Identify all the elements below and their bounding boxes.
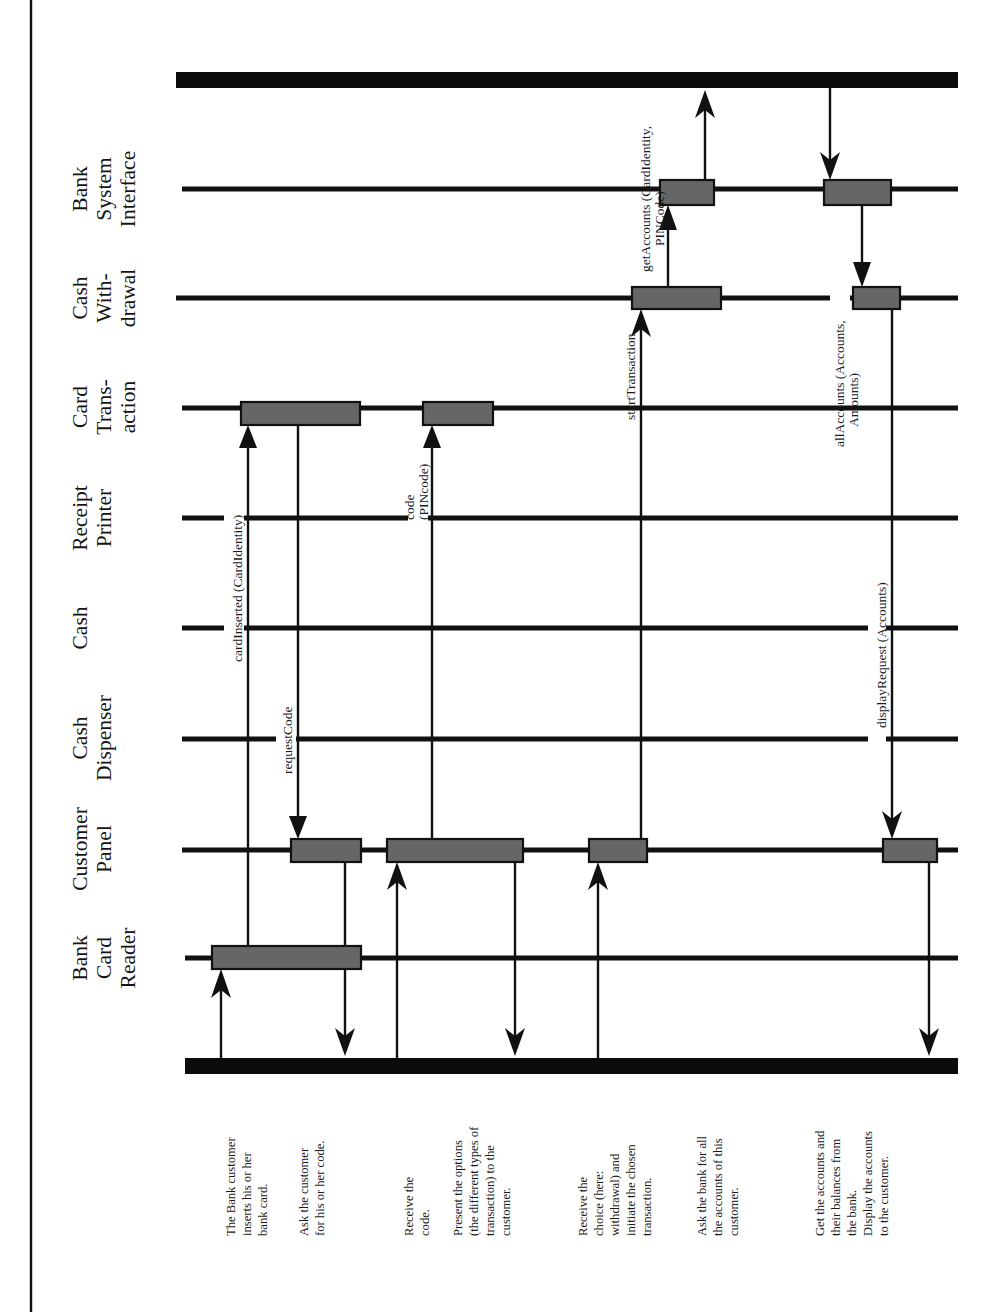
object-name-cash-withdrawal: Cash With- drawal [68,269,140,328]
message-label-getAccounts: getAccounts (CardIdentity, PINCode) [638,126,667,272]
step-note-2: Ask the customer for his or her code. [297,1141,327,1236]
svg-text:getAccounts (CardIdentity,: getAccounts (CardIdentity, [638,126,653,272]
svg-text:their balances from: their balances from [829,1139,843,1236]
svg-text:Receive the: Receive the [402,1177,416,1236]
svg-text:With-: With- [92,273,116,322]
arrowhead-filled-up-icon [423,425,441,448]
svg-text:Printer: Printer [92,489,116,548]
svg-text:for his or her code.: for his or her code. [313,1141,327,1236]
arrowhead-filled-down-icon [289,816,307,839]
svg-text:Get the accounts and: Get the accounts and [813,1130,827,1236]
svg-text:Cash: Cash [68,606,92,649]
step-note-7: Get the accounts and their balances from… [813,1130,891,1236]
object-name-cash: Cash [68,606,92,649]
svg-text:Card: Card [92,937,116,979]
activation-customer-panel-2 [387,839,523,862]
activation-card-transaction-2 [423,402,493,425]
object-name-bank-card-reader: Bank Card Reader [68,928,140,989]
svg-text:System: System [92,157,116,221]
svg-text:Card: Card [68,386,92,428]
svg-text:Dispenser: Dispenser [92,695,116,781]
svg-text:action: action [116,380,140,433]
svg-text:the bank.: the bank. [845,1190,859,1236]
svg-text:Bank: Bank [68,935,92,981]
svg-text:The Bank customer: The Bank customer [224,1137,238,1236]
svg-text:Reader: Reader [116,928,140,989]
svg-text:withdrawal) and: withdrawal) and [608,1153,622,1236]
sequence-diagram: Bank System Interface Cash With- drawal … [0,0,1004,1312]
svg-text:Ask the customer: Ask the customer [297,1147,311,1236]
step-note-4: Present the options (the different types… [451,1126,513,1236]
message-label-startTransaction: startTransaction [623,333,638,420]
svg-text:customer.: customer. [727,1187,741,1236]
svg-text:transaction.: transaction. [640,1178,654,1236]
svg-text:cardInserted (CardIdentity): cardInserted (CardIdentity) [230,515,245,662]
arrowhead-filled-down-icon [853,262,871,287]
svg-text:(PINcode): (PINcode) [416,464,431,520]
svg-text:Trans-: Trans- [92,379,116,434]
message-label-allAccounts: allAccounts (Accounts, Amounts) [832,320,861,447]
object-name-card-transaction: Card Trans- action [68,379,140,434]
svg-text:requestCode: requestCode [280,707,295,774]
svg-text:customer.: customer. [499,1187,513,1236]
message-label-code: code (PINcode) [402,464,431,520]
svg-text:code: code [402,495,417,520]
activation-card-transaction-1 [241,402,360,425]
activation-customer-panel-3 [589,839,647,862]
svg-text:the accounts of this: the accounts of this [711,1138,725,1236]
svg-text:initiate the chosen: initiate the chosen [624,1144,638,1236]
activation-cash-withdrawal-2 [853,287,900,309]
svg-text:code.: code. [418,1209,432,1236]
svg-text:inserts his or her: inserts his or her [240,1152,254,1236]
svg-text:drawal: drawal [116,269,140,328]
object-name-receipt-printer: Receipt Printer [68,485,116,551]
svg-text:startTransaction: startTransaction [623,333,638,420]
activation-bank-system-interface-1 [660,180,714,205]
object-name-bank-system-interface: Bank System Interface [68,151,140,227]
svg-text:transaction) to the: transaction) to the [483,1145,497,1236]
svg-text:Cash: Cash [68,716,92,759]
svg-text:displayRequest (Accounts): displayRequest (Accounts) [874,582,889,728]
svg-text:bank card.: bank card. [256,1184,270,1236]
svg-text:to the customer.: to the customer. [877,1156,891,1236]
step-note-1: The Bank customer inserts his or her ban… [224,1137,270,1236]
step-note-3: Receive the code. [402,1177,432,1236]
activation-bank-card-reader-1 [212,946,361,969]
message-label-displayRequest: displayRequest (Accounts) [874,582,889,728]
top-boundary-bar [176,72,958,88]
step-note-6: Ask the bank for all the accounts of thi… [695,1135,741,1236]
svg-text:Amounts): Amounts) [846,373,861,427]
svg-text:Display the accounts: Display the accounts [861,1131,875,1236]
step-note-5: Receive the choice (here: withdrawal) an… [576,1144,654,1236]
svg-text:(the different types of: (the different types of [467,1126,481,1236]
svg-text:Present the options: Present the options [451,1140,465,1236]
object-name-cash-dispenser: Cash Dispenser [68,695,116,781]
svg-text:Customer: Customer [68,807,92,891]
svg-text:Panel: Panel [92,825,116,873]
activation-cash-withdrawal-1 [632,287,721,309]
svg-text:Cash: Cash [68,276,92,319]
message-label-requestCode: requestCode [280,707,295,774]
svg-text:choice (here:: choice (here: [592,1171,606,1236]
bottom-boundary-bar [185,1058,958,1074]
svg-text:Bank: Bank [68,166,92,212]
svg-text:Interface: Interface [116,151,140,227]
svg-text:Ask the bank for all: Ask the bank for all [695,1135,709,1236]
message-label-cardInserted: cardInserted (CardIdentity) [230,515,245,662]
svg-text:allAccounts (Accounts,: allAccounts (Accounts, [832,320,847,447]
arrowhead-filled-up-icon [239,425,257,448]
activation-customer-panel-1 [291,839,361,862]
activation-bank-system-interface-2 [824,180,891,205]
object-name-customer-panel: Customer Panel [68,807,116,891]
svg-text:PINCode): PINCode) [652,191,667,246]
activation-customer-panel-4 [883,839,937,862]
svg-text:Receive the: Receive the [576,1177,590,1236]
svg-text:Receipt: Receipt [68,485,92,551]
